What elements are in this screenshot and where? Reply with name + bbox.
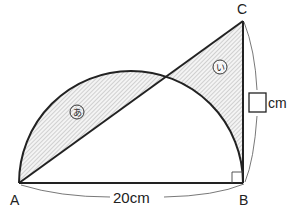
bc-unit-label: cm — [268, 95, 287, 111]
region-i-label: い — [216, 63, 225, 73]
brace-ab-right — [164, 184, 244, 197]
point-c-label: C — [237, 1, 247, 17]
answer-box[interactable] — [249, 93, 266, 112]
point-a-label: A — [10, 192, 20, 208]
brace-bc-bottom — [245, 116, 257, 182]
brace-ab-left — [21, 185, 110, 197]
region-a-label: あ — [73, 108, 82, 118]
brace-bc-top — [244, 22, 257, 90]
ab-length-label: 20cm — [113, 189, 150, 206]
geometry-figure: cm 20cm A B C あ い — [0, 0, 297, 211]
point-b-label: B — [239, 192, 248, 208]
